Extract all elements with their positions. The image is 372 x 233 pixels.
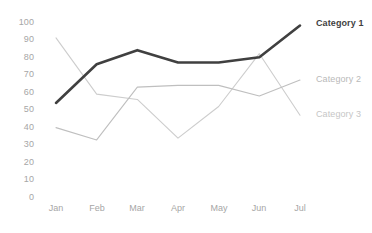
- y-tick-60: 60: [8, 87, 34, 97]
- x-tick-apr: Apr: [161, 203, 195, 213]
- y-tick-70: 70: [8, 69, 34, 79]
- y-tick-20: 20: [8, 157, 34, 167]
- legend-label-category-1[interactable]: Category 1: [316, 18, 364, 28]
- legend-label-category-2[interactable]: Category 2: [316, 74, 361, 84]
- series-line-category-1: [56, 26, 300, 103]
- x-tick-mar: Mar: [120, 203, 154, 213]
- y-tick-10: 10: [8, 174, 34, 184]
- x-tick-jul: Jul: [283, 203, 317, 213]
- y-tick-40: 40: [8, 122, 34, 132]
- y-tick-50: 50: [8, 104, 34, 114]
- y-tick-90: 90: [8, 34, 34, 44]
- y-tick-80: 80: [8, 52, 34, 62]
- x-tick-jun: Jun: [242, 203, 276, 213]
- line-chart: 100 90 80 70 60 50 40 30 20 10 0 Jan Feb…: [0, 0, 372, 233]
- y-tick-30: 30: [8, 139, 34, 149]
- x-tick-feb: Feb: [80, 203, 114, 213]
- x-tick-jan: Jan: [39, 203, 73, 213]
- y-tick-100: 100: [8, 17, 34, 27]
- legend-label-category-3[interactable]: Category 3: [316, 109, 361, 119]
- y-tick-0: 0: [8, 192, 34, 202]
- x-tick-may: May: [202, 203, 236, 213]
- series-paths: [56, 26, 300, 140]
